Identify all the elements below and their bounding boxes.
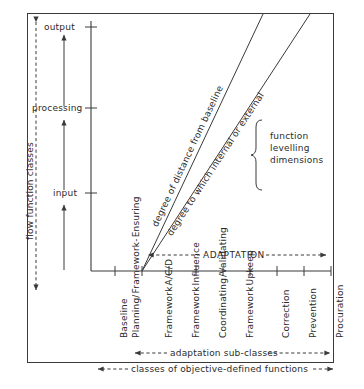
x-label-prevention: Prevention: [308, 288, 318, 338]
x-label-line: Framework-: [131, 238, 141, 293]
function-levelling-brace: [251, 120, 262, 190]
x-label-coordinating-validating: Coordinating /Validating: [218, 227, 228, 338]
adaptation-label: ADAPTATION: [203, 250, 265, 260]
x-label-line: Framework: [245, 286, 255, 338]
x-label-line: Ensuring: [131, 196, 141, 237]
x-label-line: Upkeep: [245, 250, 255, 285]
x-label-correction: Correction: [281, 289, 291, 338]
x-label-line: Framework: [191, 286, 201, 338]
y-tick-label-processing: processing: [32, 103, 83, 113]
x-label-line: Influence: [191, 242, 201, 285]
x-label-line: Planning/: [131, 294, 141, 338]
x-label-framework-influence: Framework Influence: [191, 242, 201, 338]
brace-line-1: function: [270, 130, 323, 142]
x-label-line: Framework: [164, 286, 174, 338]
x-label-planning-framework-ensuring: Planning/ Framework- Ensuring: [131, 196, 141, 338]
y-tick-label-output: output: [44, 22, 75, 32]
x-label-framework-acd: Framework A/C/D: [164, 259, 174, 338]
x-label-procuration: Procuration: [335, 284, 345, 338]
adaptation-sub-classes-label: adaptation sub-classes: [170, 348, 278, 358]
y-tick-label-input: input: [53, 188, 77, 198]
flow-function-classes-label: flow function classes: [25, 142, 35, 240]
x-label-framework-upkeep: Framework Upkeep: [245, 250, 255, 338]
x-label-line: Coordinating: [218, 278, 228, 338]
brace-line-2: levelling: [270, 142, 323, 154]
x-label-line: /Validating: [218, 227, 228, 277]
brace-line-3: dimensions: [270, 154, 323, 166]
function-levelling-dimensions-label: function levelling dimensions: [270, 130, 323, 166]
x-label-line: A/C/D: [164, 259, 174, 285]
diagram-canvas: output processing input flow function cl…: [0, 0, 364, 389]
objective-defined-functions-label: classes of objective-defined functions: [131, 364, 308, 374]
x-label-baseline: Baseline: [119, 298, 129, 338]
diagonal-line-upper: [142, 14, 263, 271]
